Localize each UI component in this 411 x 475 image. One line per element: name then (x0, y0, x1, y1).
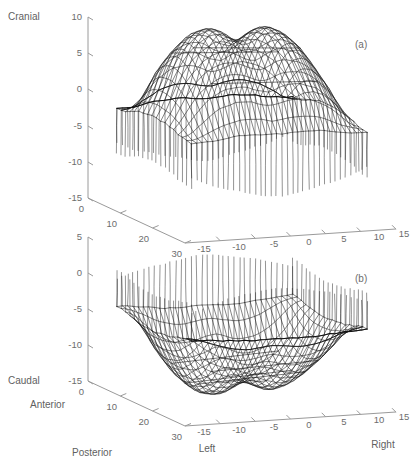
panel-a-label: (a) (355, 39, 367, 50)
panel-a-dtick-0: 0 (79, 203, 84, 214)
panel-b-htick-5: 10 (374, 414, 385, 425)
panel-b-horizontal-axis-left-label: Left (199, 443, 216, 454)
panel-b-vtick-0: 5 (77, 231, 82, 242)
panel-a-vtick-3: -5 (74, 120, 82, 131)
panel-b-dtick-3: 30 (171, 431, 182, 442)
figure-container: 10 5 0 -5 -10 -15 Cranial 0 10 20 30 (0, 0, 411, 475)
panel-a-htick-3: 0 (306, 236, 311, 247)
panel-b-htick-4: 5 (341, 416, 346, 427)
panel-a-vtick-4: -10 (68, 156, 82, 167)
panel-b-vtick-1: 0 (77, 267, 82, 278)
panel-a-vtick-1: 5 (77, 47, 82, 58)
panel-a-dtick-1: 10 (106, 218, 117, 229)
panel-a-vertical-axis-label: Cranial (8, 11, 40, 22)
panel-a-htick-1: -10 (232, 241, 246, 252)
panel-a-htick-4: 5 (341, 233, 346, 244)
panel-b-horizontal-axis-right-label: Right (371, 439, 395, 450)
panel-a-vtick-0: 10 (71, 11, 82, 22)
panel-b-vertical-axis-label: Caudal (8, 375, 40, 386)
panel-b-htick-6: 15 (399, 411, 410, 422)
panel-a-vtick-5: -15 (68, 192, 82, 203)
panel-b-label: (b) (355, 273, 367, 284)
panel-a-htick-5: 10 (374, 231, 385, 242)
panel-a-dtick-3: 30 (171, 248, 182, 259)
panel-b-htick-1: -10 (232, 424, 246, 435)
panel-b-depth-axis-far-label: Posterior (72, 447, 113, 458)
panel-a-htick-6: 15 (399, 228, 410, 239)
panel-b-dtick-0: 0 (79, 386, 84, 397)
panel-b-depth-axis-near-label: Anterior (30, 399, 66, 410)
panel-b-htick-3: 0 (306, 419, 311, 430)
panel-a-dtick-2: 20 (138, 233, 149, 244)
panel-b-htick-2: -5 (270, 421, 278, 432)
panel-b-dtick-1: 10 (106, 401, 117, 412)
panel-b-dtick-2: 20 (138, 416, 149, 427)
panel-b-vtick-2: -5 (74, 303, 82, 314)
panel-b-vtick-4: -15 (68, 375, 82, 386)
panel-b-htick-0: -15 (197, 426, 211, 437)
panel-b-vtick-3: -10 (68, 339, 82, 350)
figure-svg: 10 5 0 -5 -10 -15 Cranial 0 10 20 30 (0, 0, 411, 475)
panel-a-vtick-2: 0 (77, 83, 82, 94)
panel-a-htick-0: -15 (197, 243, 211, 254)
panel-a-htick-2: -5 (270, 238, 278, 249)
